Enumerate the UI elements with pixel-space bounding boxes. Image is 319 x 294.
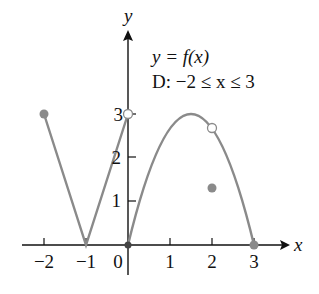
- closed-point: [40, 110, 49, 119]
- y-tick-label: 2: [112, 147, 122, 168]
- y-axis-label: y: [122, 5, 133, 26]
- x-ticks: [44, 238, 254, 245]
- closed-point: [250, 241, 259, 250]
- open-point: [208, 124, 217, 133]
- x-tick-label: 3: [249, 251, 259, 272]
- y-tick-label: 1: [112, 190, 122, 211]
- x-tick-label: −1: [76, 251, 96, 272]
- x-tick-label: 0: [113, 251, 123, 272]
- x-axis-label: x: [293, 234, 303, 255]
- parabola-segment: [128, 114, 254, 245]
- open-point: [124, 110, 133, 119]
- equation-label: y = f(x): [150, 46, 209, 68]
- x-tick-label: 1: [165, 251, 175, 272]
- closed-point: [125, 242, 132, 249]
- closed-point: [208, 184, 217, 193]
- function-graph: −2 −1 0 1 2 3 1 2 3 x y y = f(x) D: −2 ≤…: [0, 0, 319, 294]
- x-tick-label: −2: [34, 251, 54, 272]
- x-tick-label: 2: [207, 251, 217, 272]
- y-ticks: [128, 114, 136, 201]
- v-segment: [44, 114, 128, 245]
- y-tick-label: 3: [114, 104, 124, 125]
- domain-label: D: −2 ≤ x ≤ 3: [152, 71, 255, 92]
